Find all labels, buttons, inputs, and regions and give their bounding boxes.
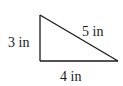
hypotenuse (40, 15, 118, 61)
right-triangle-diagram: 3 in 5 in 4 in (0, 0, 123, 86)
hypotenuse-label: 5 in (82, 24, 103, 39)
vertical-side-label: 3 in (8, 35, 29, 50)
horizontal-side-label: 4 in (60, 69, 81, 84)
